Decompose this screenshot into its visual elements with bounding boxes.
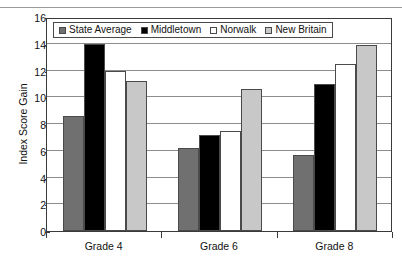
legend-swatch-icon [265, 27, 272, 34]
header-divider [0, 7, 402, 8]
y-axis-tick-label: 10 [6, 92, 46, 104]
legend-swatch-icon [210, 27, 217, 34]
x-axis-tick-mark [161, 232, 162, 238]
bar-state-average-grade-4 [63, 116, 84, 231]
legend-label: Norwalk [220, 25, 256, 35]
legend-swatch-icon [59, 27, 66, 34]
bar-middletown-grade-8 [314, 84, 335, 231]
y-axis-tick-label: 4 [6, 173, 46, 185]
legend-item: State Average [59, 25, 132, 35]
y-axis-tick-label: 14 [6, 39, 46, 51]
chart-legend: State AverageMiddletownNorwalkNew Britai… [53, 22, 333, 38]
legend-label: Middletown [151, 25, 202, 35]
bar-new-britain-grade-6 [241, 89, 262, 231]
bar-middletown-grade-4 [84, 44, 105, 231]
y-axis-tick-label: 12 [6, 66, 46, 78]
legend-item: New Britain [265, 25, 326, 35]
plot-area [46, 18, 392, 232]
legend-label: New Britain [275, 25, 326, 35]
y-axis-tick-label: 6 [6, 146, 46, 158]
legend-swatch-icon [141, 27, 148, 34]
bar-norwalk-grade-8 [335, 64, 356, 231]
bar-norwalk-grade-6 [220, 131, 241, 231]
y-axis-tick-label: 8 [6, 119, 46, 131]
y-axis-tick-label: 2 [6, 199, 46, 211]
x-axis-tick-label: Grade 4 [85, 240, 123, 252]
y-axis-tick-label: 0 [6, 226, 46, 238]
x-axis-tick-mark [277, 232, 278, 238]
y-axis-tick-label: 16 [6, 12, 46, 24]
legend-label: State Average [69, 25, 132, 35]
bar-state-average-grade-6 [178, 148, 199, 231]
bar-new-britain-grade-4 [126, 81, 147, 231]
x-axis-tick-label: Grade 6 [200, 240, 238, 252]
x-axis-tick-mark [392, 232, 393, 238]
x-axis-tick-mark [46, 232, 47, 238]
legend-item: Norwalk [210, 25, 256, 35]
bar-norwalk-grade-4 [105, 71, 126, 232]
legend-item: Middletown [141, 25, 202, 35]
chart-figure: Index Score Gain 0246810121416 Grade 4Gr… [0, 0, 402, 262]
bar-state-average-grade-8 [293, 155, 314, 231]
bar-new-britain-grade-8 [356, 45, 377, 231]
x-axis-tick-label: Grade 8 [315, 240, 353, 252]
bar-middletown-grade-6 [199, 135, 220, 231]
